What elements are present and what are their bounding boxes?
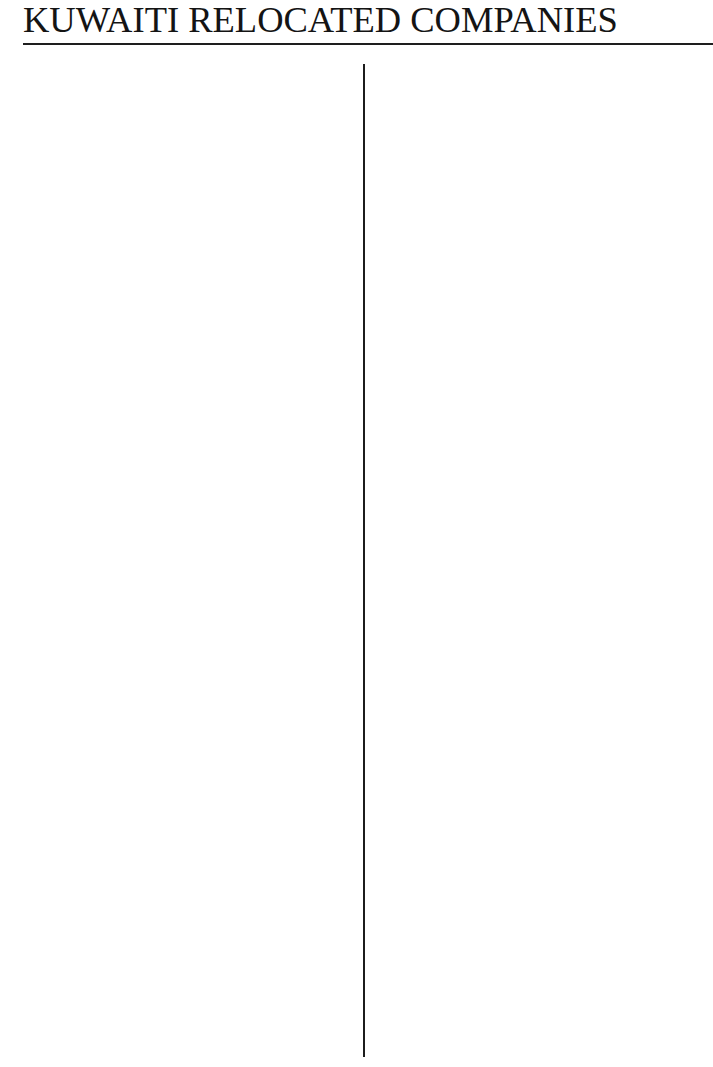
left-column bbox=[23, 64, 358, 1057]
title-underline-rule bbox=[23, 43, 713, 45]
page-title: KUWAITI RELOCATED COMPANIES bbox=[23, 0, 618, 40]
column-divider bbox=[363, 64, 365, 1057]
right-column bbox=[370, 64, 713, 1057]
